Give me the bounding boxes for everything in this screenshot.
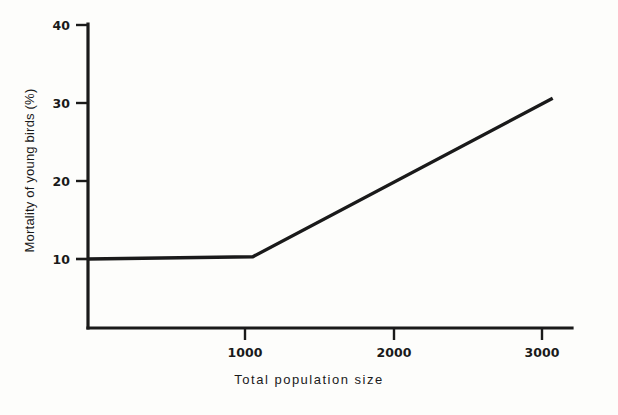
x-tick-label-2000: 2000 xyxy=(377,345,412,360)
x-tick-label-3000: 3000 xyxy=(525,345,560,360)
data-line-mortality xyxy=(88,98,553,259)
x-axis-title: Total population size xyxy=(0,372,618,387)
chart-figure: 40 30 20 10 1000 2000 3000 Total populat… xyxy=(0,0,618,415)
y-axis-title: Mortality of young birds (%) xyxy=(23,88,38,252)
x-tick-label-1000: 1000 xyxy=(228,345,263,360)
y-axis-title-wrapper: Mortality of young birds (%) xyxy=(10,0,50,340)
